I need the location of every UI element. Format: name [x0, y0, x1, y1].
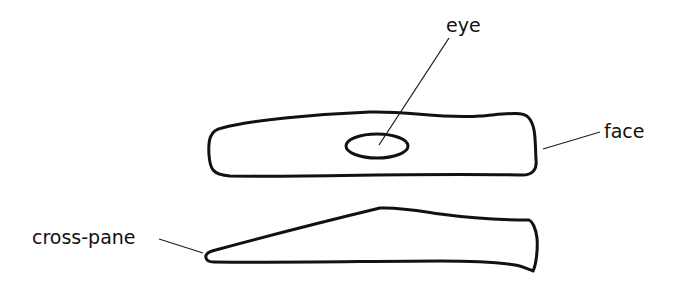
hammer-top-view-outline [209, 112, 536, 176]
face-leader-line [543, 132, 600, 149]
eye-label: eye [446, 14, 481, 36]
eye-hole [346, 134, 408, 158]
cross-pane-label: cross-pane [32, 226, 136, 248]
eye-leader-line [379, 38, 449, 145]
hammer-side-view-outline [206, 208, 537, 271]
face-label: face [604, 120, 644, 142]
cross-pane-leader-line [159, 239, 203, 253]
hammer-head-diagram: eye face cross-pane [0, 0, 677, 298]
